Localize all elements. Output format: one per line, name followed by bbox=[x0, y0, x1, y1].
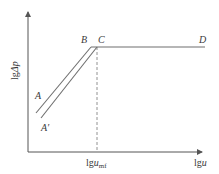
x-tick-umf-label: lgumf bbox=[86, 157, 107, 170]
x-axis-label: lgu bbox=[194, 157, 207, 168]
label-b: B bbox=[81, 34, 87, 45]
label-a: A bbox=[34, 90, 42, 101]
pressure-drop-diagram: B C D A A′ lgΔp lgumf lgu bbox=[0, 0, 219, 174]
line-a-prime-c bbox=[41, 47, 97, 118]
label-c: C bbox=[98, 34, 105, 45]
y-axis-label: lgΔp bbox=[9, 61, 20, 80]
label-a-prime: A′ bbox=[40, 122, 50, 133]
label-d: D bbox=[198, 34, 207, 45]
line-a-b bbox=[36, 47, 91, 113]
